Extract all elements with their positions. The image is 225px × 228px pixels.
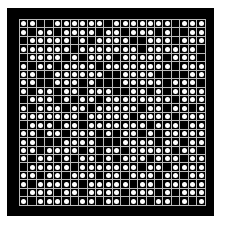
board-cell[interactable] (37, 138, 45, 146)
board-cell[interactable] (172, 138, 180, 146)
board-cell[interactable] (163, 28, 171, 36)
board-cell[interactable] (155, 71, 163, 79)
board-cell[interactable] (130, 20, 138, 28)
board-cell[interactable] (79, 37, 87, 45)
board-cell[interactable] (197, 147, 205, 155)
board-cell[interactable] (37, 113, 45, 121)
board-cell[interactable] (79, 45, 87, 53)
board-cell[interactable] (189, 62, 197, 70)
board-cell[interactable] (54, 163, 62, 171)
board-cell[interactable] (104, 37, 112, 45)
board-cell[interactable] (37, 155, 45, 163)
board-cell[interactable] (113, 62, 121, 70)
board-cell[interactable] (71, 79, 79, 87)
board-cell[interactable] (163, 113, 171, 121)
board-cell[interactable] (79, 147, 87, 155)
board-cell[interactable] (189, 79, 197, 87)
board-cell[interactable] (113, 20, 121, 28)
board-cell[interactable] (121, 28, 129, 36)
board-cell[interactable] (62, 96, 70, 104)
board-cell[interactable] (96, 28, 104, 36)
board-cell[interactable] (71, 20, 79, 28)
board-cell[interactable] (172, 28, 180, 36)
board-cell[interactable] (113, 104, 121, 112)
board-cell[interactable] (138, 28, 146, 36)
board-cell[interactable] (96, 155, 104, 163)
board-cell[interactable] (189, 20, 197, 28)
board-cell[interactable] (79, 130, 87, 138)
board-cell[interactable] (28, 54, 36, 62)
board-cell[interactable] (20, 163, 28, 171)
board-cell[interactable] (96, 189, 104, 197)
board-cell[interactable] (54, 197, 62, 205)
board-cell[interactable] (96, 172, 104, 180)
board-cell[interactable] (62, 104, 70, 112)
board-cell[interactable] (147, 113, 155, 121)
board-cell[interactable] (45, 130, 53, 138)
board-cell[interactable] (88, 54, 96, 62)
board-cell[interactable] (104, 28, 112, 36)
board-cell[interactable] (189, 28, 197, 36)
board-cell[interactable] (71, 54, 79, 62)
board-cell[interactable] (104, 121, 112, 129)
board-cell[interactable] (96, 180, 104, 188)
board-cell[interactable] (71, 62, 79, 70)
board-cell[interactable] (130, 138, 138, 146)
board-cell[interactable] (197, 96, 205, 104)
board-cell[interactable] (163, 104, 171, 112)
board-cell[interactable] (54, 147, 62, 155)
board-cell[interactable] (172, 189, 180, 197)
board-cell[interactable] (54, 79, 62, 87)
board-cell[interactable] (113, 163, 121, 171)
board-cell[interactable] (147, 62, 155, 70)
board-cell[interactable] (113, 121, 121, 129)
board-cell[interactable] (138, 172, 146, 180)
board-cell[interactable] (138, 37, 146, 45)
board-cell[interactable] (54, 113, 62, 121)
board-cell[interactable] (197, 88, 205, 96)
board-cell[interactable] (71, 138, 79, 146)
board-cell[interactable] (20, 121, 28, 129)
board-cell[interactable] (54, 71, 62, 79)
board-cell[interactable] (88, 138, 96, 146)
board-cell[interactable] (155, 104, 163, 112)
board-cell[interactable] (155, 130, 163, 138)
board-cell[interactable] (20, 197, 28, 205)
board-cell[interactable] (62, 155, 70, 163)
game-board[interactable] (19, 19, 206, 206)
board-cell[interactable] (104, 88, 112, 96)
board-cell[interactable] (88, 104, 96, 112)
board-cell[interactable] (37, 147, 45, 155)
board-cell[interactable] (197, 54, 205, 62)
board-cell[interactable] (197, 45, 205, 53)
board-cell[interactable] (96, 138, 104, 146)
board-cell[interactable] (37, 172, 45, 180)
board-cell[interactable] (172, 62, 180, 70)
board-cell[interactable] (62, 37, 70, 45)
board-cell[interactable] (130, 37, 138, 45)
board-cell[interactable] (62, 20, 70, 28)
board-cell[interactable] (88, 180, 96, 188)
board-cell[interactable] (28, 130, 36, 138)
board-cell[interactable] (189, 45, 197, 53)
board-cell[interactable] (189, 96, 197, 104)
board-cell[interactable] (45, 189, 53, 197)
board-cell[interactable] (113, 113, 121, 121)
board-cell[interactable] (28, 172, 36, 180)
board-cell[interactable] (121, 189, 129, 197)
board-cell[interactable] (45, 163, 53, 171)
board-cell[interactable] (130, 155, 138, 163)
board-cell[interactable] (172, 88, 180, 96)
board-cell[interactable] (96, 113, 104, 121)
board-cell[interactable] (62, 62, 70, 70)
board-cell[interactable] (79, 197, 87, 205)
board-cell[interactable] (88, 172, 96, 180)
board-cell[interactable] (147, 180, 155, 188)
board-cell[interactable] (147, 163, 155, 171)
board-cell[interactable] (37, 180, 45, 188)
board-cell[interactable] (155, 79, 163, 87)
board-cell[interactable] (172, 130, 180, 138)
board-cell[interactable] (147, 20, 155, 28)
board-cell[interactable] (45, 172, 53, 180)
board-cell[interactable] (71, 189, 79, 197)
